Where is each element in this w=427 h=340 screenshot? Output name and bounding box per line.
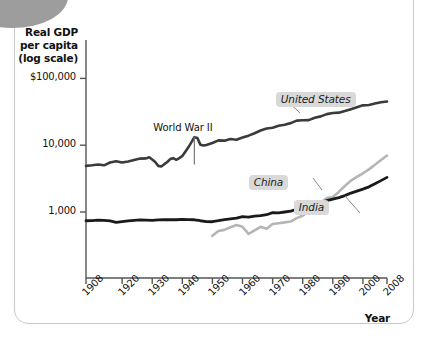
series-line-china: [212, 156, 387, 236]
chart-page: Real GDPper capita(log scale) Year $100,…: [0, 0, 427, 340]
series-line-india: [86, 177, 387, 222]
y-tick-label-100000: $100,000: [6, 71, 76, 82]
annotation-world-war-ii: World War II: [153, 122, 212, 133]
leader-line-china: [313, 178, 322, 190]
leader-line-india: [345, 196, 360, 213]
y-tick-label-1000: 1,000: [6, 205, 76, 216]
y-tick-label-10000: 10,000: [6, 138, 76, 149]
series-label-china: China: [249, 175, 289, 190]
series-label-india: India: [294, 200, 329, 215]
series-label-united-states: United States: [276, 92, 356, 107]
series-line-united-states: [86, 102, 387, 167]
